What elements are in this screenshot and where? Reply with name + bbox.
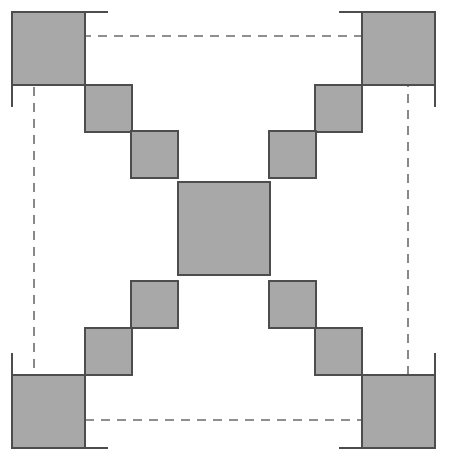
step-square-upper-left-outer xyxy=(85,85,132,132)
figure-container xyxy=(0,0,450,468)
step-square-lower-left-outer xyxy=(85,328,132,375)
corner-square-bottom-left xyxy=(12,375,85,448)
step-square-upper-right-inner xyxy=(269,131,316,178)
corner-square-top-left xyxy=(12,12,85,85)
step-square-upper-left-inner xyxy=(131,131,178,178)
step-square-upper-right-outer xyxy=(315,85,362,132)
corner-square-top-right xyxy=(362,12,435,85)
step-square-lower-left-inner xyxy=(131,281,178,328)
step-square-lower-right-outer xyxy=(315,328,362,375)
dissection-diagram xyxy=(0,0,450,468)
corner-square-bottom-right xyxy=(362,375,435,448)
step-square-lower-right-inner xyxy=(269,281,316,328)
center-square xyxy=(178,182,270,275)
